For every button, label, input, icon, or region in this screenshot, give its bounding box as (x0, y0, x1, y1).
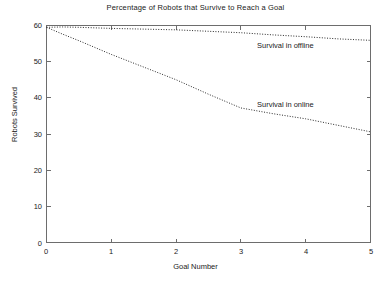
axis-ticks (47, 26, 371, 243)
series-paths (47, 27, 371, 132)
series-line-online (47, 27, 371, 132)
chart-container: Percentage of Robots that Survive to Rea… (0, 0, 391, 283)
chart-svg-layer (0, 0, 391, 283)
series-line-offline (47, 27, 371, 40)
